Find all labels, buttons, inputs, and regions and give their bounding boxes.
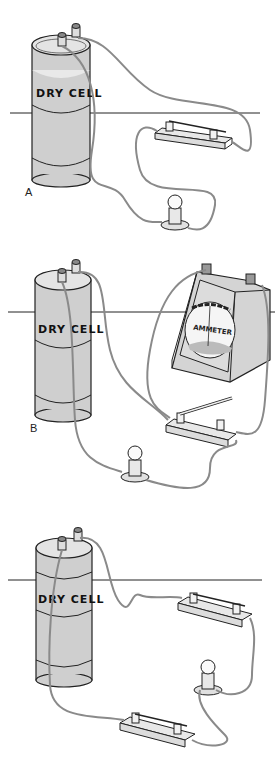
panel-label: B bbox=[30, 422, 37, 434]
circuit-b-illustration: DRY CELL AMMETER bbox=[0, 250, 278, 510]
lamp bbox=[121, 446, 149, 482]
dry-cell: DRY CELL bbox=[36, 528, 104, 688]
panel-b: DRY CELL AMMETER bbox=[0, 250, 278, 510]
wire bbox=[216, 618, 254, 694]
wire bbox=[192, 690, 227, 745]
panel-label: A bbox=[25, 186, 33, 198]
knife-switch-open bbox=[166, 398, 236, 447]
panel-a: DRY CELL A bbox=[0, 0, 278, 250]
knife-switch bbox=[155, 121, 232, 149]
wire bbox=[146, 440, 236, 488]
cell-label: DRY CELL bbox=[38, 593, 104, 606]
dry-cell: DRY CELL bbox=[35, 260, 104, 423]
panel-c: DRY CELL bbox=[0, 510, 278, 758]
ammeter: AMMETER bbox=[172, 264, 270, 382]
circuit-a-illustration: DRY CELL A bbox=[0, 0, 278, 250]
circuit-c-illustration: DRY CELL bbox=[0, 510, 278, 758]
knife-switch bbox=[120, 713, 195, 747]
lamp bbox=[194, 660, 222, 695]
lamp bbox=[161, 195, 189, 230]
knife-switch bbox=[178, 593, 252, 627]
